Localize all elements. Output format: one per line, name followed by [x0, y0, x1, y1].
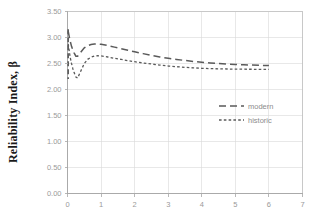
reliability-index-chart: Reliability Index, β 0.000.501.001.502.0…	[0, 0, 318, 224]
x-tick-label: 2	[133, 200, 137, 209]
y-tick-label: 3.00	[47, 33, 62, 42]
y-tick-label: 2.00	[47, 85, 62, 94]
legend-label-modern: modern	[248, 102, 273, 111]
x-tick-label: 1	[99, 200, 103, 209]
series-line-historic	[68, 44, 269, 78]
x-tick-label: 0	[65, 200, 69, 209]
y-tick-labels: 0.000.501.001.502.002.503.003.50	[47, 7, 62, 198]
legend-label-historic: historic	[248, 116, 272, 125]
y-tick-label: 2.50	[47, 59, 62, 68]
y-tick-label: 3.50	[47, 7, 62, 16]
x-tick-label: 4	[200, 200, 204, 209]
x-tick-labels: 01234567	[65, 200, 304, 209]
series-line-modern	[68, 31, 269, 65]
x-tick-label: 7	[300, 200, 304, 209]
series-group	[68, 29, 269, 79]
y-tick-label: 1.50	[47, 111, 62, 120]
x-tick-label: 5	[233, 200, 237, 209]
plot-svg: 0.000.501.001.502.002.503.003.50 0123456…	[0, 0, 318, 224]
y-tick-label: 1.00	[47, 137, 62, 146]
x-tick-label: 3	[166, 200, 170, 209]
y-tick-label: 0.00	[47, 189, 62, 198]
legend: modernhistoric	[219, 102, 273, 125]
x-tick-label: 6	[267, 200, 271, 209]
y-tick-label: 0.50	[47, 163, 62, 172]
